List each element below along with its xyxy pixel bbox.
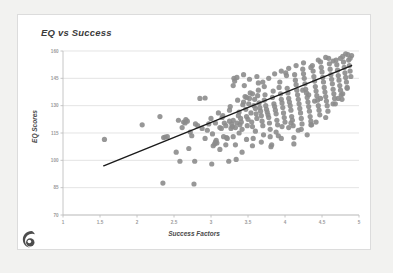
x-axis-label: Success Factors xyxy=(18,230,370,237)
svg-text:70: 70 xyxy=(53,213,59,218)
svg-text:4.5: 4.5 xyxy=(319,220,326,225)
svg-text:1.5: 1.5 xyxy=(97,220,104,225)
x-tick-labels: 11.522.533.544.55 xyxy=(62,215,361,225)
svg-text:85: 85 xyxy=(53,185,59,190)
y-axis-label: EQ Scores xyxy=(31,97,38,157)
trend-line xyxy=(104,66,352,166)
svg-text:2.5: 2.5 xyxy=(171,220,178,225)
svg-text:160: 160 xyxy=(51,49,59,54)
svg-text:2: 2 xyxy=(136,220,139,225)
svg-text:5: 5 xyxy=(358,220,361,225)
svg-text:3: 3 xyxy=(210,220,213,225)
svg-text:3.5: 3.5 xyxy=(245,220,252,225)
chart-card: EQ vs Success 7085100115130145160 11.522… xyxy=(17,14,371,250)
scatter-plot-svg: 7085100115130145160 11.522.533.544.55 xyxy=(18,15,372,251)
svg-text:1: 1 xyxy=(62,220,65,225)
svg-text:100: 100 xyxy=(51,158,59,163)
data-points xyxy=(102,51,354,186)
plot-area: 7085100115130145160 11.522.533.544.55 xyxy=(18,15,372,251)
svg-text:4: 4 xyxy=(284,220,287,225)
svg-text:145: 145 xyxy=(51,76,59,81)
y-tick-labels: 7085100115130145160 xyxy=(51,49,63,218)
svg-text:130: 130 xyxy=(51,103,59,108)
spiral-logo xyxy=(20,229,42,251)
svg-text:115: 115 xyxy=(51,131,59,136)
